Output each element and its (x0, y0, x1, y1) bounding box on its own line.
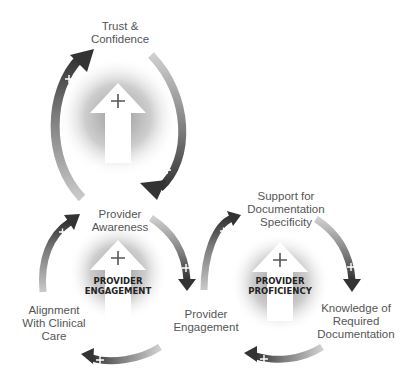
node-alignment-clinical-care: Alignment With Clinical Care (14, 304, 94, 343)
loop-top (55, 49, 182, 200)
node-provider-awareness: Provider Awareness (80, 208, 160, 234)
arrow-head-icon (178, 279, 196, 291)
arrow-head-icon (343, 279, 361, 292)
arrow-head-icon (244, 346, 257, 362)
arrow-head-icon (81, 348, 94, 364)
arc-arrow-bottom (256, 347, 322, 359)
node-trust-confidence: Trust & Confidence (80, 20, 160, 46)
node-knowledge-required-documentation: Knowledge of Required Documentation (306, 302, 406, 341)
reinforcing-loops-diagram: Trust & Confidence Provider Awareness Al… (0, 0, 407, 388)
node-provider-engagement: Provider Engagement (166, 308, 246, 334)
arc-arrow-bottom (92, 347, 160, 361)
node-support-documentation-specificity: Support for Documentation Specificity (236, 190, 336, 229)
arc-arrow-left (204, 218, 232, 290)
core-label-provider-engagement: PROVIDER ENGAGEMENT (78, 276, 158, 296)
core-label-provider-proficiency: PROVIDER PROFICIENCY (240, 276, 320, 296)
